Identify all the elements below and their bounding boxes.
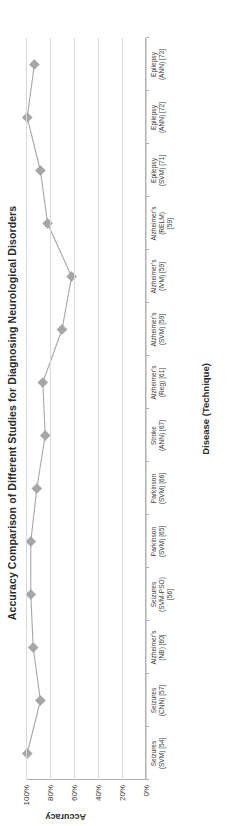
y-axis-title: Accuracy [45,812,86,822]
y-tick-label: 80% [46,785,55,801]
x-tick-mark [146,620,149,621]
data-point-marker[interactable] [22,749,32,759]
data-point-marker[interactable] [57,325,67,335]
x-label-line1: Seizures [150,582,157,608]
gridline [146,38,147,780]
x-label-line1: Alzheimer's [150,631,157,665]
chart-title: Accuracy Comparison of Different Studies… [6,0,18,826]
x-tick-label: Epilepsy(ANN) [73] [150,33,166,97]
y-tick-label: 60% [70,785,79,801]
x-label-line1: Epilepsy [150,158,157,183]
y-tick-label: 40% [94,785,103,801]
plot-area: 0%20%40%60%80%100% [26,38,146,780]
gridline [122,38,123,780]
gridline [98,38,99,780]
x-tick-mark [146,461,149,462]
data-point-marker[interactable] [26,590,36,600]
gridline [26,38,27,780]
y-tick-label: 100% [22,785,31,805]
x-tick-mark [146,726,149,727]
gridline [50,38,51,780]
data-point-marker[interactable] [67,272,77,282]
x-tick-mark [146,37,149,38]
data-point-marker[interactable] [26,537,36,547]
x-tick-mark [146,514,149,515]
x-label-line3: [56] [166,563,174,627]
x-tick-mark [146,779,149,780]
data-point-marker[interactable] [29,60,39,70]
data-point-marker[interactable] [32,484,42,494]
series-accuracy [26,38,146,780]
x-label-line1: Epilepsy [150,52,157,77]
x-tick-mark [146,196,149,197]
x-label-line1: Seizures [150,688,157,714]
data-point-marker[interactable] [43,219,53,229]
x-label-line1: Alzheimer's [150,313,157,347]
x-tick-mark [146,567,149,568]
y-tick-label: 0% [142,785,151,797]
x-label-line2: (ANN) [73] [158,33,166,97]
y-tick-label: 20% [118,785,127,801]
x-tick-mark [146,673,149,674]
x-label-line1: Stroke [150,426,157,445]
data-point-marker[interactable] [28,643,38,653]
x-label-line1: Alzheimer's [150,207,157,241]
data-point-marker[interactable] [22,113,32,123]
x-tick-mark [146,249,149,250]
data-point-marker[interactable] [35,166,45,176]
x-tick-mark [146,302,149,303]
x-label-line1: Seizures [150,741,157,767]
gridline [74,38,75,780]
data-point-marker[interactable] [38,378,48,388]
x-axis-title: Disease (Technique) [200,38,211,780]
x-label-line1: Parkinson [150,527,157,556]
x-label-line3: [59] [166,192,174,256]
x-label-line1: Epilepsy [150,105,157,130]
x-label-line1: Alzheimer's [150,260,157,294]
x-tick-mark [146,408,149,409]
x-label-line1: Alzheimer's [150,366,157,400]
x-label-line1: Parkinson [150,474,157,503]
x-axis-tick-labels: Seizures(SVM) [54]Seizures(CNN) [57]Alzh… [150,38,194,780]
x-tick-mark [146,143,149,144]
x-tick-mark [146,355,149,356]
x-tick-mark [146,90,149,91]
data-point-marker[interactable] [40,431,50,441]
chart-figure: Accuracy Comparison of Different Studies… [0,0,248,826]
data-point-marker[interactable] [35,696,45,706]
chart-canvas: Accuracy Comparison of Different Studies… [0,0,248,826]
